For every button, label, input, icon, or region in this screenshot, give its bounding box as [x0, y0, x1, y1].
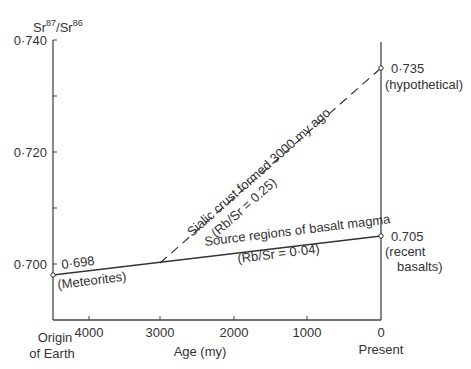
strontium-evolution-chart: Sr87/Sr86 0·740 0·720 0·700 4000 3000 20… [0, 0, 471, 369]
basalt-line-sublabel: (Rb/Sr = 0·04) [237, 241, 321, 266]
x-tick-label: 3000 [146, 325, 175, 340]
meteorite-note: (Meteorites) [57, 269, 128, 292]
hypothetical-note: (hypothetical) [385, 77, 463, 92]
meteorite-value: 0·698 [61, 253, 96, 272]
x-tick-label: 1000 [293, 325, 322, 340]
hypothetical-value: 0·735 [391, 61, 424, 76]
origin-label-line2: of Earth [29, 346, 75, 361]
recent-basalt-point [379, 234, 383, 238]
recent-basalt-value: 0.705 [391, 229, 424, 244]
origin-label: Origin [38, 330, 73, 345]
sialic-line-label: Sialic crust formed 3000 my ago [184, 105, 333, 239]
x-tick-label: 4000 [75, 325, 104, 340]
recent-basalt-note-2: basalts) [397, 259, 443, 274]
y-tick-label: 0·740 [14, 33, 47, 48]
recent-basalt-note-1: (recent [385, 244, 426, 259]
x-axis-label: Age (my) [174, 344, 227, 359]
present-label: Present [359, 342, 404, 357]
x-tick-label: 2000 [220, 325, 249, 340]
meteorite-point [51, 273, 55, 277]
y-tick-label: 0·700 [14, 257, 47, 272]
x-tick-label: 0 [377, 325, 384, 340]
hypothetical-point [379, 66, 383, 70]
y-tick-label: 0·720 [14, 145, 47, 160]
